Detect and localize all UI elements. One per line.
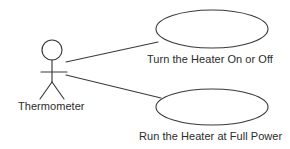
association-line-thermometer-turn-heater[interactable] (66, 42, 158, 62)
association-line-thermometer-run-heater[interactable] (66, 75, 161, 98)
actor-left-leg-icon (40, 82, 52, 99)
actor-stick-figure-thermometer[interactable] (40, 40, 67, 99)
use-case-ellipse-turn-heater[interactable] (156, 10, 268, 48)
use-case-diagram-canvas: Thermometer Turn the Heater On or Off Ru… (0, 0, 290, 149)
use-case-label-run-heater: Run the Heater at Full Power (139, 130, 282, 142)
use-case-label-turn-heater: Turn the Heater On or Off (147, 53, 273, 65)
actor-head-icon (42, 40, 62, 60)
actor-label-thermometer: Thermometer (18, 100, 85, 112)
diagram-vector-layer (0, 0, 290, 149)
actor-right-leg-icon (52, 82, 64, 99)
use-case-ellipse-run-heater[interactable] (156, 89, 268, 125)
